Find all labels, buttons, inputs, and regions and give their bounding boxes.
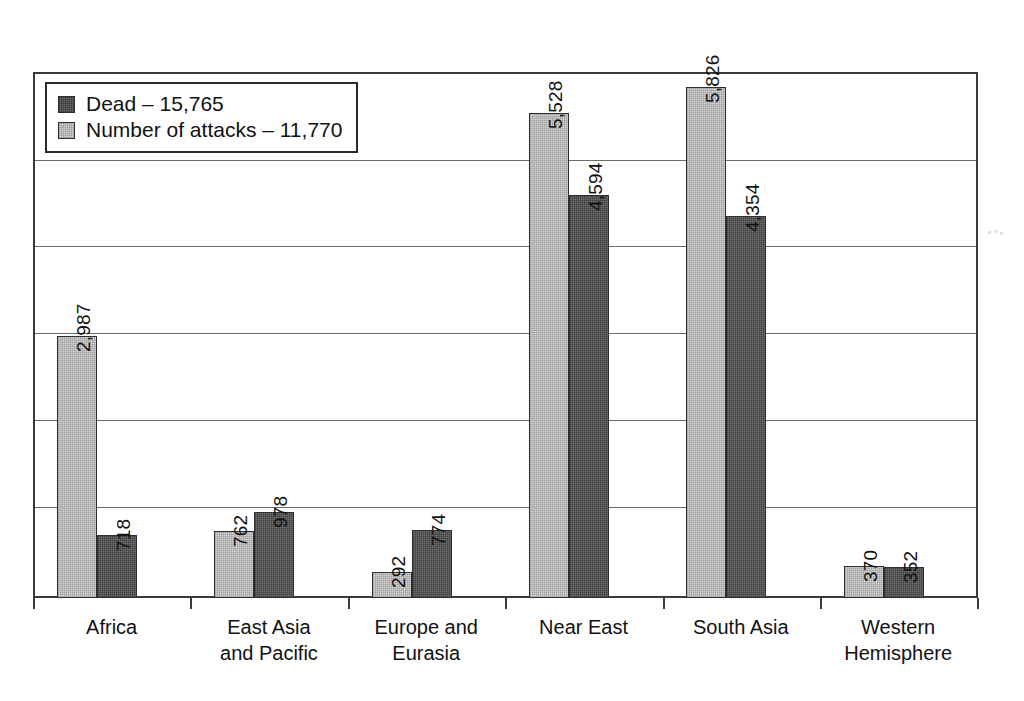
bar-value-label: 718 — [113, 519, 135, 551]
scan-artifact — [986, 228, 1004, 237]
bar-value-label: 978 — [270, 496, 292, 528]
bar-chart: 2,9877187629782927745,5284,5945,8264,354… — [0, 0, 1024, 701]
bar-value-label: 5,528 — [545, 81, 567, 130]
x-axis-category-label: Near East — [505, 614, 662, 640]
x-axis-tick — [190, 598, 192, 609]
bar-value-label: 774 — [428, 514, 450, 546]
legend-swatch-attacks-icon — [58, 122, 75, 139]
bar-value-label: 352 — [900, 551, 922, 583]
bar-value-label: 292 — [388, 556, 410, 588]
bar-value-label: 2,987 — [73, 304, 95, 353]
x-axis-tick — [977, 598, 979, 609]
x-axis-category-label: Western Hemisphere — [820, 614, 977, 666]
legend-label-attacks: Number of attacks – 11,770 — [86, 118, 342, 142]
legend-item: Dead – 15,765 — [58, 91, 342, 117]
bar-value-label: 762 — [230, 515, 252, 547]
bar-number-of-attacks — [529, 113, 569, 598]
bar-value-label: 5,826 — [702, 55, 724, 104]
chart-legend: Dead – 15,765 Number of attacks – 11,770 — [45, 82, 358, 153]
bar-value-label: 4,354 — [742, 184, 764, 233]
bar-dead — [726, 216, 766, 598]
x-axis-tick — [505, 598, 507, 609]
bar-number-of-attacks — [57, 336, 97, 598]
x-axis-tick — [33, 598, 35, 609]
x-axis-category-label: Africa — [33, 614, 190, 640]
bar-value-label: 370 — [860, 549, 882, 581]
x-axis-tick — [663, 598, 665, 609]
x-axis-tick — [348, 598, 350, 609]
x-axis-category-label: South Asia — [662, 614, 819, 640]
bar-dead — [569, 195, 609, 598]
legend-label-dead: Dead – 15,765 — [86, 92, 224, 116]
legend-swatch-dead-icon — [58, 96, 75, 113]
bar-value-label: 4,594 — [585, 163, 607, 212]
legend-item: Number of attacks – 11,770 — [58, 117, 342, 143]
bar-number-of-attacks — [686, 87, 726, 598]
x-axis-category-label: Europe and Eurasia — [348, 614, 505, 666]
x-axis-category-label: East Asia and Pacific — [190, 614, 347, 666]
x-axis-tick — [820, 598, 822, 609]
